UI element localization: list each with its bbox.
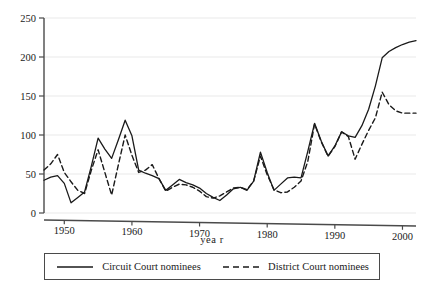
legend-swatch-dashed-icon (222, 262, 260, 272)
series-line-circuit (44, 41, 416, 203)
x-axis-title: yea r (200, 234, 224, 245)
x-axis-tick-label: 1990 (324, 230, 345, 241)
legend-label-circuit: Circuit Court nominees (102, 261, 201, 272)
data-series-group (44, 41, 416, 203)
y-axis-tick-label: 100 (20, 130, 36, 141)
y-axis-tick-label: 250 (20, 13, 36, 24)
x-axis-line (44, 220, 416, 226)
y-axis-tick-label: 200 (20, 52, 36, 63)
legend-swatch-solid-icon (56, 262, 94, 272)
gridlines (44, 18, 416, 213)
x-axis-tick-label: 1950 (54, 225, 75, 236)
legend-label-district: District Court nominees (268, 261, 369, 272)
chart-legend: Circuit Court nominees District Court no… (44, 253, 380, 280)
y-axis-tick-label: 0 (31, 208, 36, 219)
chart-figure: 050100150200250 195019601970198019902000… (0, 0, 425, 300)
y-axis-tick-label: 50 (26, 169, 37, 180)
legend-entry-district: District Court nominees (212, 261, 379, 272)
x-axis-tick-label: 1960 (121, 226, 142, 237)
x-axis-tick-label: 1980 (257, 229, 278, 240)
y-axis-tick-label: 150 (20, 91, 36, 102)
y-axis-ticks: 050100150200250 (20, 13, 44, 219)
y-axis: 050100150200250 (20, 13, 44, 219)
series-line-district (44, 92, 416, 198)
legend-entry-circuit: Circuit Court nominees (45, 261, 212, 272)
x-axis: 195019601970198019902000 (44, 220, 416, 242)
line-chart-svg: 050100150200250 195019601970198019902000… (0, 0, 425, 250)
x-axis-tick-label: 2000 (392, 231, 413, 242)
plot-area: 050100150200250 195019601970198019902000… (0, 0, 425, 250)
